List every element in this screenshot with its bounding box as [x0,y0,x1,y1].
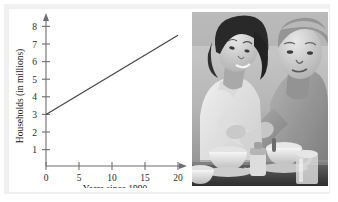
y-tick-label-5: 5 [32,75,37,85]
figure-container: 1 2 3 4 5 6 7 8 0 5 10 15 20 Households … [0,0,338,202]
y-tick-label-7: 7 [32,40,37,50]
x-tick-label-20: 20 [173,173,183,183]
line-chart: 1 2 3 4 5 6 7 8 0 5 10 15 20 Households … [12,10,190,188]
x-tick-label-10: 10 [107,173,117,183]
x-tick-label-5: 5 [77,173,82,183]
photo-couple-at-cafe [192,12,328,186]
x-axis-title: Years since 1990 [83,184,148,188]
y-tick-label-1: 1 [32,145,37,155]
y-axis-arrow-icon [43,13,49,21]
photo-svg [192,12,328,186]
y-tick-label-6: 6 [32,57,37,67]
x-axis-arrow-icon [179,163,187,169]
x-tick-label-0: 0 [44,173,49,183]
chart-svg: 1 2 3 4 5 6 7 8 0 5 10 15 20 Households … [12,10,190,188]
y-tick-label-8: 8 [32,22,37,32]
y-tick-label-4: 4 [32,92,37,102]
y-tick-label-3: 3 [32,110,37,120]
photo-vignette [192,12,328,186]
x-tick-label-15: 15 [140,173,150,183]
data-series-line-households [46,35,178,114]
y-axis-title: Households (in millions) [15,49,26,143]
y-tick-label-2: 2 [32,128,37,138]
